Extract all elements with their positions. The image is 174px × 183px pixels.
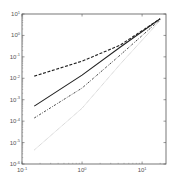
x-tick-label: 100 <box>78 166 88 174</box>
y-axis-ticks: 10110010-110-210-310-410-510-6 <box>10 10 166 168</box>
y-tick-label: 101 <box>11 10 21 18</box>
y-tick-label: 100 <box>11 31 21 39</box>
series-dash-dot-line <box>34 20 160 118</box>
series-dotted-line <box>34 20 160 150</box>
series-dashed-line <box>34 19 160 76</box>
log-log-line-chart: 10110010-110-210-310-410-510-6 10-110010… <box>0 0 174 183</box>
y-tick-label: 10-1 <box>10 52 21 60</box>
y-tick-label: 10-4 <box>10 117 21 125</box>
plot-frame <box>22 14 166 164</box>
series-solid-line <box>34 19 160 106</box>
y-tick-label: 10-3 <box>10 95 21 103</box>
x-tick-label: 101 <box>138 166 148 174</box>
y-tick-label: 10-6 <box>10 160 21 168</box>
x-axis-ticks: 10-1100101 <box>17 14 160 173</box>
y-tick-label: 10-5 <box>10 138 21 146</box>
series-lines <box>34 19 160 150</box>
x-tick-label: 10-1 <box>17 166 28 174</box>
y-tick-label: 10-2 <box>10 74 21 82</box>
